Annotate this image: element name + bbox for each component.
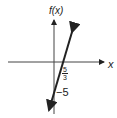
- function-line: [49, 32, 72, 110]
- x-axis-label: x: [108, 58, 114, 70]
- x-intercept-numerator: 5: [63, 66, 67, 73]
- y-axis-label: f(x): [49, 5, 63, 16]
- x-intercept-label: 5 3: [62, 66, 68, 81]
- plot-area: [0, 0, 117, 118]
- x-intercept-denominator: 3: [63, 74, 67, 81]
- y-intercept-label: −5: [56, 86, 69, 98]
